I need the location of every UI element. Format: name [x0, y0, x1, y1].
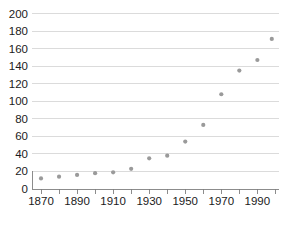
data-point — [147, 156, 151, 160]
x-tick-label-1870: 1870 — [28, 195, 54, 207]
data-point — [255, 58, 259, 62]
y-tick-label-200: 200 — [9, 8, 28, 20]
data-point — [237, 68, 241, 72]
y-tick-label-140: 140 — [9, 60, 28, 72]
x-tick-label-1970: 1970 — [209, 195, 235, 207]
data-point — [111, 170, 115, 174]
data-point — [201, 123, 205, 127]
y-tick-label-100: 100 — [9, 95, 28, 107]
y-axis-tick-labels: 020406080100120140160180200 — [9, 8, 28, 196]
y-tick-label-160: 160 — [9, 43, 28, 55]
data-point — [165, 154, 169, 158]
x-tick-label-1930: 1930 — [136, 195, 162, 207]
x-tick-label-1890: 1890 — [64, 195, 90, 207]
data-point — [219, 92, 223, 96]
data-point — [39, 176, 43, 180]
data-point — [75, 173, 79, 177]
axes — [32, 171, 279, 193]
plot-area: 020406080100120140160180200 187018901910… — [0, 0, 285, 225]
data-point — [93, 171, 97, 175]
y-tick-label-80: 80 — [15, 113, 28, 125]
y-tick-label-0: 0 — [22, 183, 28, 195]
data-point — [183, 140, 187, 144]
data-point — [57, 175, 61, 179]
data-point — [129, 167, 133, 171]
gridlines — [32, 14, 279, 172]
data-points — [39, 37, 274, 181]
y-tick-label-20: 20 — [15, 165, 28, 177]
y-tick-label-120: 120 — [9, 78, 28, 90]
y-tick-label-60: 60 — [15, 130, 28, 142]
y-tick-label-40: 40 — [15, 148, 28, 160]
x-axis-tick-labels: 1870189019101930195019701990 — [28, 195, 270, 207]
scatter-chart: 020406080100120140160180200 187018901910… — [0, 0, 285, 225]
x-tick-label-1910: 1910 — [100, 195, 126, 207]
data-point — [270, 37, 274, 41]
x-tick-label-1950: 1950 — [172, 195, 198, 207]
x-tick-label-1990: 1990 — [245, 195, 271, 207]
y-tick-label-180: 180 — [9, 25, 28, 37]
